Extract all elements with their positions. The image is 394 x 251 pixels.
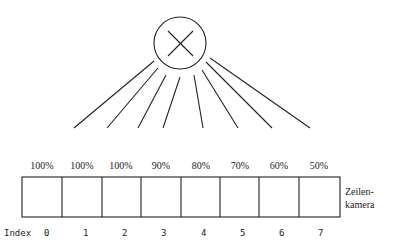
camera-label: Zeilen- kamera xyxy=(345,185,374,211)
weight-label: 50% xyxy=(299,160,339,171)
connection-lines xyxy=(74,58,310,128)
weight-label: 100% xyxy=(22,160,62,171)
index-value: 4 xyxy=(201,228,206,238)
index-value: 3 xyxy=(161,228,166,238)
weight-label: 70% xyxy=(220,160,260,171)
weight-label: 80% xyxy=(181,160,221,171)
index-label: Index xyxy=(4,228,31,238)
index-value: 5 xyxy=(240,228,245,238)
weight-label: 60% xyxy=(259,160,299,171)
camera-label-line1: Zeilen- xyxy=(345,185,374,198)
weight-label: 100% xyxy=(62,160,102,171)
index-value: 0 xyxy=(44,228,49,238)
index-value: 2 xyxy=(122,228,127,238)
weight-label: 100% xyxy=(101,160,141,171)
multiply-icon xyxy=(168,31,193,56)
index-value: 6 xyxy=(279,228,284,238)
weight-label: 90% xyxy=(141,160,181,171)
line-camera xyxy=(22,177,340,217)
camera-label-line2: kamera xyxy=(345,198,374,211)
index-value: 1 xyxy=(83,228,88,238)
index-value: 7 xyxy=(318,228,323,238)
diagram-canvas xyxy=(0,0,394,251)
